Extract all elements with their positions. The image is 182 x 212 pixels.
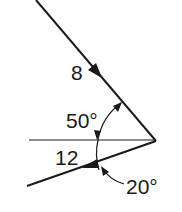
vector-diagram: 8 50° 12 20°	[0, 0, 182, 212]
vector-8-label: 8	[71, 61, 83, 84]
angle-20-label: 20°	[126, 175, 158, 198]
angle-50-label: 50°	[66, 109, 98, 132]
vector-8-arrowhead-icon	[88, 63, 102, 78]
angle-50-arrowhead-upper-icon	[113, 102, 122, 112]
diagram-svg: 8 50° 12 20°	[0, 0, 182, 212]
vector-12-label: 12	[55, 146, 78, 169]
